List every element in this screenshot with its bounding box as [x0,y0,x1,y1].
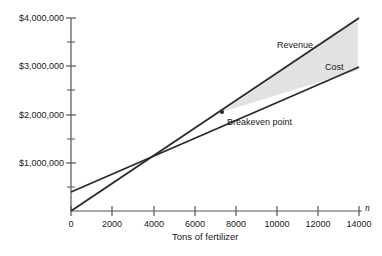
x-axis-variable-n: n [365,203,370,213]
series-label-revenue: Revenue [277,40,313,50]
x-axis-label-8000: 8000 [216,219,256,229]
breakeven-chart-figure: $4,000,000 $3,000,000 $2,000,000 $1,000,… [0,0,382,256]
cost-line [71,67,359,192]
y-axis-label-4000000: $4,000,000 [2,13,64,23]
breakeven-point-label: Breakeven point [227,117,292,127]
x-axis-label-10000: 10000 [257,219,297,229]
y-axis-label-2000000: $2,000,000 [2,110,64,120]
revenue-line [71,18,359,211]
x-axis-label-12000: 12000 [298,219,338,229]
x-axis-label-4000: 4000 [134,219,174,229]
x-axis-title: Tons of fertilizer [172,231,239,242]
x-axis-label-0: 0 [51,219,91,229]
series-label-cost: Cost [325,62,344,72]
x-axis-label-2000: 2000 [92,219,132,229]
y-axis-label-3000000: $3,000,000 [2,61,64,71]
breakeven-point-marker [220,110,224,114]
x-axis-label-6000: 6000 [175,219,215,229]
y-axis-label-1000000: $1,000,000 [2,158,64,168]
x-axis-label-14000: 14000 [339,219,379,229]
chart-canvas [0,0,382,256]
